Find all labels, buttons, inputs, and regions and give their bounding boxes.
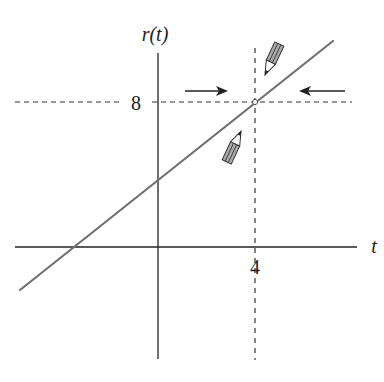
t-axis-label: t: [371, 235, 377, 257]
limit-diagram: r(t) t 8 4: [0, 0, 384, 382]
pencil-icon-upper: [260, 42, 283, 77]
function-line: [20, 41, 333, 290]
arrow-right-icon: [185, 86, 228, 96]
arrow-left-icon: [299, 86, 345, 96]
pencil-icon-lower: [222, 129, 245, 164]
open-point-marker: [252, 99, 257, 104]
tick-label-8: 8: [131, 92, 141, 114]
r-axis-label: r(t): [142, 23, 169, 46]
tick-label-4: 4: [250, 256, 260, 278]
